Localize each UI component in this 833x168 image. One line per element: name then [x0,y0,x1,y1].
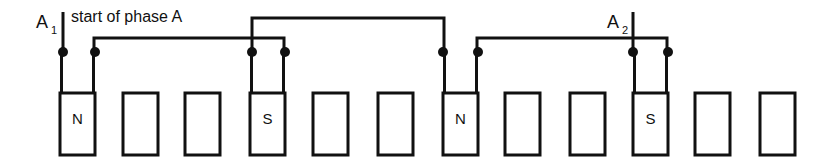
slot-9-coil [570,93,605,155]
slot-11-box [695,93,730,155]
slot-3-coil [185,93,220,155]
junction-dot [663,47,673,57]
slot-5-box [313,93,348,155]
slot-8-box [505,93,540,155]
slot-8-coil [505,93,540,155]
winding-diagram: N S [0,0,833,168]
connection-slot4-to-slot7 [252,18,444,52]
connection-slot7-to-slot10 [477,38,667,52]
slot-1-coil: N [60,52,95,155]
terminal-A1-subscript: 1 [51,24,57,36]
slot-4-coil: S [250,52,285,155]
slot-7-coil: N [443,52,478,155]
slot-6-coil [378,93,413,155]
slot-12-coil [760,93,795,155]
winding-schematic-svg: N S [0,0,833,168]
junction-dot [90,47,100,57]
slot-10-pole-label: S [645,110,655,127]
slot-7-pole-label: N [455,110,466,127]
label-group: A 1 A 2 start of phase A [36,8,628,36]
terminal-A2-subscript: 2 [622,24,628,36]
slot-2-coil [123,93,158,155]
slot-6-box [378,93,413,155]
junction-dot [628,47,638,57]
slot-11-coil [695,93,730,155]
slot-group: N S [60,52,795,155]
junction-dot-group [58,47,673,57]
junction-dot [438,47,448,57]
junction-dot [58,47,68,57]
slot-2-box [123,93,158,155]
slot-5-coil [313,93,348,155]
slot-3-box [185,93,220,155]
slot-10-coil: S [633,52,668,155]
slot-12-box [760,93,795,155]
junction-dot [473,47,483,57]
slot-1-pole-label: N [72,110,83,127]
terminal-A2-label: A [607,12,619,32]
slot-4-pole-label: S [262,110,272,127]
slot-9-box [570,93,605,155]
junction-dot [280,47,290,57]
junction-dot [247,47,257,57]
phase-start-annotation: start of phase A [71,8,183,25]
terminal-A1-label: A [36,12,48,32]
